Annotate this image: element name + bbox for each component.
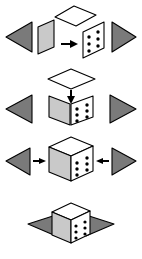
gray-face-panel — [49, 96, 70, 125]
white-rhombus-top — [48, 69, 95, 89]
left-triangle-icon — [6, 95, 32, 123]
left-triangle-icon — [6, 148, 30, 175]
down-arrow-icon — [67, 90, 75, 104]
cube-assembly-figure — [0, 0, 142, 259]
right-triangle-icon — [112, 148, 136, 175]
white-rhombus-top — [55, 6, 96, 26]
panel-step-2 — [0, 65, 142, 129]
dotted-face-panel — [71, 96, 93, 125]
panel-step-3 — [0, 129, 142, 193]
left-arrow-icon — [96, 158, 109, 164]
right-triangle-icon — [112, 22, 136, 52]
panel-step-4 — [0, 193, 142, 259]
right-triangle-icon — [110, 95, 136, 123]
dotted-face-panel — [83, 22, 104, 58]
right-arrow-icon — [61, 40, 78, 48]
left-triangle-icon — [6, 22, 32, 52]
panel-step-1 — [0, 0, 142, 65]
right-arrow-icon — [33, 158, 46, 164]
gray-face-panel — [38, 20, 54, 54]
